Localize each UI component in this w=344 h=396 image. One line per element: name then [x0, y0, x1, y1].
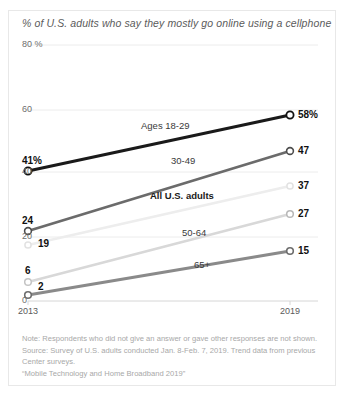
- x-tick-label-2013: 2013: [18, 306, 38, 316]
- start-value-all-us-adults: 19: [38, 238, 49, 249]
- x-axis-line: [28, 301, 318, 305]
- start-value-ages-18-29: 41%: [22, 155, 42, 166]
- series-label-all-us-adults: All U.S. adults: [150, 190, 214, 201]
- series-label-65-plus: 65+: [194, 259, 210, 270]
- y-tick-label-20: 20: [22, 231, 32, 241]
- footnote-source-line1: Source: Survey of U.S. adults conducted …: [22, 345, 322, 357]
- chart-footnotes: Note: Respondents who did not give an an…: [22, 333, 322, 379]
- end-value-all-us-adults: 37: [298, 180, 309, 191]
- series-label-50-64: 50-64: [182, 227, 206, 238]
- series-label-ages-18-29: Ages 18-29: [141, 120, 190, 131]
- footnote-source-line2: Center surveys.: [22, 356, 322, 368]
- y-tick-label-80: 80 %: [22, 39, 43, 49]
- end-value-30-49: 47: [298, 145, 309, 156]
- end-value-50-64: 27: [298, 208, 309, 219]
- start-value-65-plus: 2: [38, 281, 44, 292]
- chart-page: % of U.S. adults who say they mostly go …: [0, 0, 344, 396]
- series-label-30-49: 30-49: [171, 155, 195, 166]
- y-tick-label-40: 40: [22, 166, 32, 176]
- end-value-65-plus: 15: [298, 245, 309, 256]
- footnote-report-title: “Mobile Technology and Home Broadband 20…: [22, 368, 322, 380]
- start-value-50-64: 6: [25, 265, 31, 276]
- footnote-note: Note: Respondents who did not give an an…: [22, 333, 322, 345]
- y-tick-label-60: 60: [22, 104, 32, 114]
- end-value-ages-18-29: 58%: [298, 109, 318, 120]
- start-value-30-49: 24: [22, 215, 33, 226]
- y-tick-label-0: 0: [22, 295, 27, 305]
- x-tick-label-2019: 2019: [280, 306, 300, 316]
